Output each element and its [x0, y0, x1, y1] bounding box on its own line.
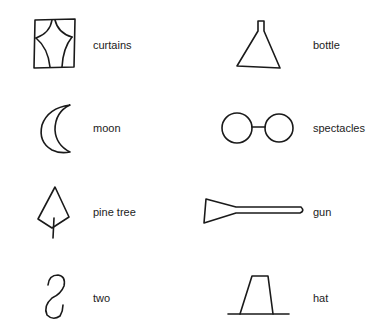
- label-spectacles: spectacles: [313, 122, 365, 134]
- label-pine-tree: pine tree: [93, 206, 136, 218]
- gun-drawing-icon: [204, 199, 303, 223]
- label-hat: hat: [313, 292, 328, 304]
- label-gun: gun: [313, 206, 331, 218]
- pine-tree-drawing-icon: [38, 187, 69, 238]
- hat-drawing-icon: [228, 276, 289, 314]
- curtains-drawing-icon: [34, 19, 75, 68]
- label-bottle: bottle: [313, 39, 340, 51]
- label-curtains: curtains: [93, 39, 132, 51]
- bottle-drawing-icon: [237, 21, 280, 68]
- moon-drawing-icon: [41, 105, 70, 153]
- two-drawing-icon: [46, 275, 65, 318]
- spectacles-drawing-icon: [222, 113, 293, 143]
- label-two: two: [93, 292, 110, 304]
- label-moon: moon: [93, 122, 121, 134]
